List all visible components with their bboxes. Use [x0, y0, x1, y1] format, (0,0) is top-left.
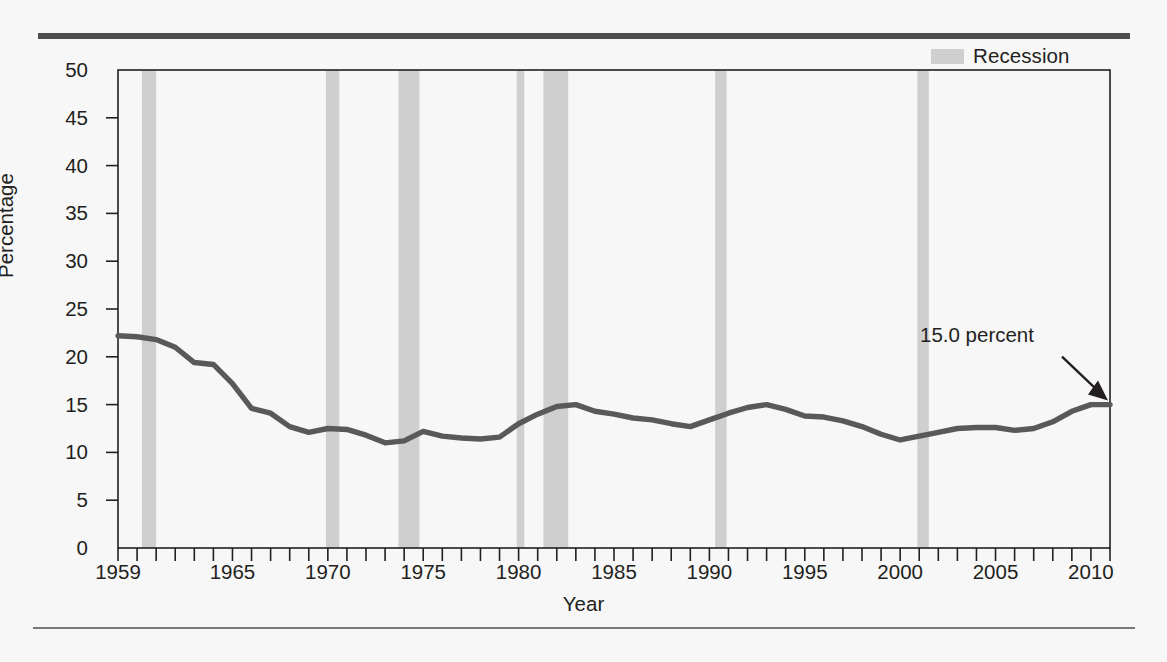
x-axis-tick-label: 1965	[187, 560, 277, 584]
y-axis-tick-label: 15	[42, 395, 88, 416]
recession-band	[142, 70, 156, 548]
x-axis-tick-label: 1995	[760, 560, 850, 584]
data-line-percentage	[118, 336, 1110, 443]
x-axis-tick-label: 2000	[855, 560, 945, 584]
x-axis-tick-label: 1990	[664, 560, 754, 584]
x-axis-tick-label: 2005	[951, 560, 1041, 584]
y-axis-tick-label: 20	[42, 347, 88, 368]
y-axis-tick-label: 25	[42, 299, 88, 320]
y-axis-tick-label: 0	[42, 538, 88, 559]
y-axis-tick-label: 10	[42, 442, 88, 463]
bottom-rule-divider	[33, 627, 1135, 629]
x-axis-tick-label: 1980	[474, 560, 564, 584]
recession-band	[543, 70, 568, 548]
plot-area: 0510152025303540455019591965197019751980…	[0, 0, 1167, 662]
y-axis-tick-label: 45	[42, 108, 88, 129]
x-axis-title: Year	[0, 592, 1167, 616]
x-axis-tick-label: 1970	[283, 560, 373, 584]
recession-band	[517, 70, 525, 548]
figure-container: Recession 051015202530354045501959196519…	[0, 0, 1167, 662]
value-annotation: 15.0 percent	[920, 323, 1034, 347]
x-axis-tick-label: 1975	[378, 560, 468, 584]
x-axis-tick-label: 1985	[569, 560, 659, 584]
y-axis-tick-label: 35	[42, 203, 88, 224]
y-axis-tick-label: 5	[42, 490, 88, 511]
recession-band	[326, 70, 339, 548]
plot-frame	[118, 70, 1110, 548]
y-axis-title: Percentage	[0, 173, 18, 278]
recession-band	[917, 70, 928, 548]
y-axis-tick-label: 30	[42, 251, 88, 272]
x-axis-tick-label: 2010	[1046, 560, 1136, 584]
recession-band	[715, 70, 726, 548]
x-axis-tick-label: 1959	[73, 560, 163, 584]
y-axis-tick-label: 50	[42, 60, 88, 81]
recession-band	[398, 70, 419, 548]
y-axis-tick-label: 40	[42, 156, 88, 177]
